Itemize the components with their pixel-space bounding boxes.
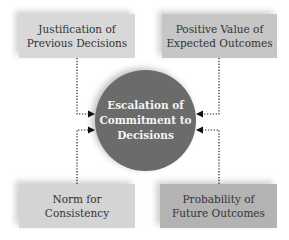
factor-box-top-left: Justification of Previous Decisions [19, 14, 135, 58]
factor-label-line: Expected Outcomes [166, 36, 272, 50]
factor-box-bottom-left: Norm for Consistency [19, 184, 135, 228]
central-concept-circle: Escalation of Commitment to Decisions [95, 70, 196, 171]
connector-top-left [77, 58, 94, 114]
connector-bottom-right [197, 130, 219, 184]
central-label-line: Escalation of [99, 98, 191, 113]
factor-label-line: Previous Decisions [27, 36, 128, 50]
central-label-line: Commitment to [99, 113, 191, 128]
factor-box-bottom-right: Probability of Future Outcomes [160, 184, 277, 228]
connector-top-right [197, 58, 219, 114]
factor-label-line: Positive Value of [166, 22, 272, 36]
factor-box-top-right: Positive Value of Expected Outcomes [162, 14, 277, 58]
connector-bottom-left [77, 130, 94, 184]
central-label-line: Decisions [99, 128, 191, 143]
factor-label-line: Future Outcomes [172, 206, 265, 220]
factor-label-line: Norm for [45, 192, 109, 206]
factor-label-line: Justification of [27, 22, 128, 36]
factor-label-line: Consistency [45, 206, 109, 220]
factor-label-line: Probability of [172, 192, 265, 206]
